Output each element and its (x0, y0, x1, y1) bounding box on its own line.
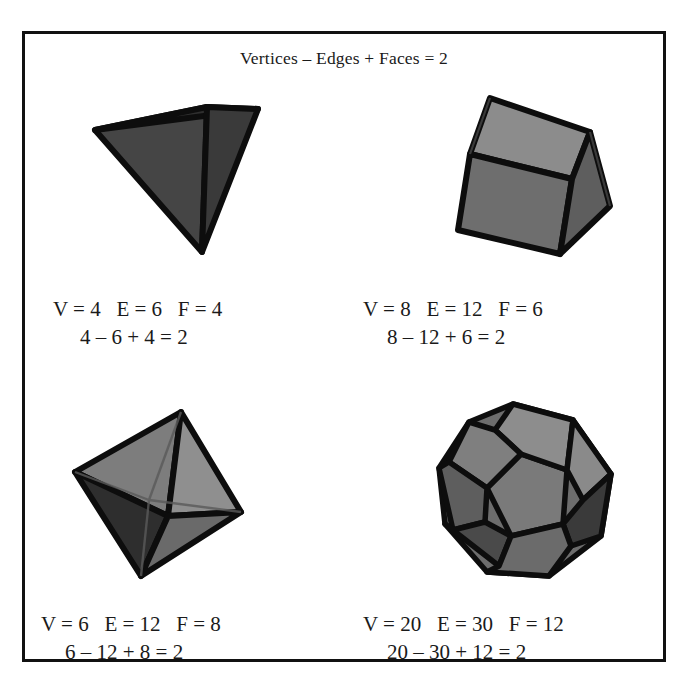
tetrahedron-illustration-area (25, 79, 347, 294)
dodecahedron-illustration-area (347, 394, 669, 609)
tetrahedron-sum-label: 4 – 6 + 4 = 2 (25, 324, 347, 352)
cube-illustration-area (347, 79, 669, 294)
cube-sum-label: 8 – 12 + 6 = 2 (347, 324, 669, 352)
dodecahedron-sum-label: 20 – 30 + 12 = 2 (347, 639, 669, 667)
cube-counts-label: V = 8 E = 12 F = 6 (347, 296, 669, 324)
dodecahedron-counts-label: V = 20 E = 30 F = 12 (347, 611, 669, 639)
cube-shape (432, 84, 632, 284)
solid-cell-octahedron: V = 6 E = 12 F = 8 6 – 12 + 8 = 2 (25, 394, 347, 666)
octahedron-labels: V = 6 E = 12 F = 8 6 – 12 + 8 = 2 (25, 609, 347, 666)
octahedron-shape (53, 404, 263, 594)
solid-cell-cube: V = 8 E = 12 F = 6 8 – 12 + 6 = 2 (347, 79, 669, 351)
octahedron-face (168, 412, 241, 516)
tetrahedron-shape (47, 87, 277, 292)
solid-cell-dodecahedron: V = 20 E = 30 F = 12 20 – 30 + 12 = 2 (347, 394, 669, 666)
figure-frame: Vertices – Edges + Faces = 2 V = 4 E = 6… (22, 31, 666, 662)
tetrahedron-labels: V = 4 E = 6 F = 4 4 – 6 + 4 = 2 (25, 294, 347, 351)
octahedron-sum-label: 6 – 12 + 8 = 2 (25, 639, 347, 667)
euler-formula-figure: { "figure": { "title": "Vertices \u2013 … (0, 0, 686, 684)
tetrahedron-face (202, 107, 258, 252)
octahedron-illustration-area (25, 394, 347, 609)
solid-cell-tetrahedron: V = 4 E = 6 F = 4 4 – 6 + 4 = 2 (25, 79, 347, 351)
cube-labels: V = 8 E = 12 F = 6 8 – 12 + 6 = 2 (347, 294, 669, 351)
octahedron-counts-label: V = 6 E = 12 F = 8 (25, 611, 347, 639)
tetrahedron-counts-label: V = 4 E = 6 F = 4 (25, 296, 347, 324)
dodecahedron-labels: V = 20 E = 30 F = 12 20 – 30 + 12 = 2 (347, 609, 669, 666)
figure-title: Vertices – Edges + Faces = 2 (25, 48, 663, 69)
dodecahedron-shape (425, 396, 625, 591)
